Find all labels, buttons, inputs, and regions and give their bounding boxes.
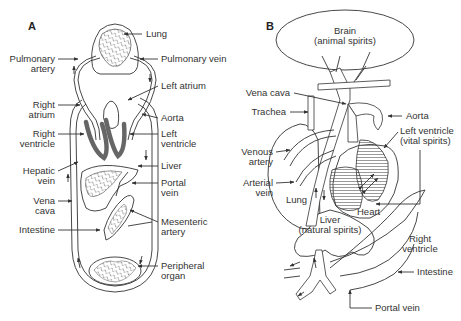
label-liver-a: Liver (161, 160, 182, 171)
label-pulmonary-artery-2: artery (31, 63, 56, 74)
panel-b: B (241, 10, 454, 313)
label-portal-vein-a-2: vein (161, 187, 178, 198)
label-right-atrium-2: atrium (29, 109, 55, 120)
label-trachea: Trachea (252, 106, 287, 117)
label-left-ventricle-b-2: (vital spirits) (400, 135, 451, 146)
label-heart: Heart (357, 206, 381, 217)
label-right-ventricle-b-2: ventricle (402, 243, 437, 254)
label-peripheral-organ-2: organ (161, 270, 185, 281)
panel-a: A (10, 20, 227, 292)
label-intestine-b: Intestine (417, 266, 453, 277)
label-left-atrium: Left atrium (161, 80, 206, 91)
label-arterial-vein-2: vein (256, 187, 273, 198)
panel-b-letter: B (266, 20, 274, 32)
panel-a-letter: A (28, 20, 36, 32)
label-pulmonary-vein: Pulmonary vein (161, 53, 226, 64)
circulation-diagram: A (0, 0, 461, 321)
label-venous-artery-2: artery (249, 156, 274, 167)
label-vena-cava-a-2: cava (35, 205, 56, 216)
mesenteric-artery-a (128, 222, 152, 226)
label-aorta-a: Aorta (161, 112, 184, 123)
heart-body-b (330, 167, 363, 211)
label-intestine-a: Intestine (19, 224, 55, 235)
label-aorta-b: Aorta (406, 110, 429, 121)
label-lung-a: Lung (146, 28, 167, 39)
label-portal-vein-b: Portal vein (375, 302, 420, 313)
lung-a (92, 24, 139, 74)
label-right-ventricle-2: ventricle (20, 138, 55, 149)
label-hepatic-vein-2: vein (38, 175, 55, 186)
trachea-b (308, 96, 314, 130)
label-left-ventricle-2: ventricle (161, 138, 196, 149)
label-brain-2: (animal spirits) (314, 35, 376, 46)
label-mesenteric-artery-2: artery (161, 226, 186, 237)
portal-vein-b (296, 250, 336, 300)
label-vena-cava-b: Vena cava (246, 87, 291, 98)
label-lung-b: Lung (286, 194, 307, 205)
label-liver-b-2: (natural spirits) (299, 224, 362, 235)
